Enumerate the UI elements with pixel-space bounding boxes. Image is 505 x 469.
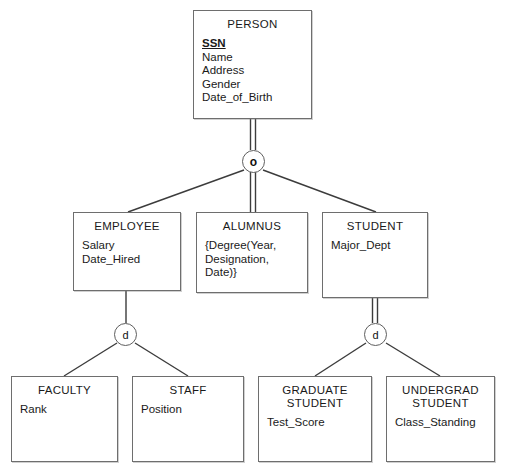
specialization-circle-disjoint-employee[interactable]: d [114,323,137,346]
line-dspec-to-undergrad [386,343,440,376]
line-spec-to-employee [128,170,244,212]
attribute-degree-line3: Date)} [205,266,307,280]
line-dspec-to-graduate [315,343,366,376]
er-diagram-canvas: PERSON SSN Name Address Gender Date_of_B… [0,0,505,469]
entity-undergrad-student[interactable]: UNDERGRAD STUDENT Class_Standing [386,376,495,462]
attribute-major-dept: Major_Dept [331,239,427,253]
entity-employee-attributes: Salary Date_Hired [74,233,180,266]
entity-employee-title: EMPLOYEE [74,213,180,233]
entity-student-attributes: Major_Dept [323,233,427,253]
entity-staff-title: STAFF [133,377,243,397]
attribute-date-of-birth: Date_of_Birth [202,91,311,105]
entity-faculty[interactable]: FACULTY Rank [11,376,118,462]
overlapping-symbol: o [250,155,257,169]
disjoint-symbol-employee: d [122,329,128,341]
attribute-ssn: SSN [202,37,311,51]
entity-person-title: PERSON [194,11,311,31]
line-dspec-to-faculty [64,343,117,376]
attribute-test-score: Test_Score [267,416,371,430]
entity-student-title: STUDENT [323,213,427,233]
entity-staff-attributes: Position [133,397,243,417]
entity-graduate-student-title-line1: GRADUATE [259,384,371,397]
entity-undergrad-student-title: UNDERGRAD STUDENT [387,377,494,410]
entity-graduate-student[interactable]: GRADUATE STUDENT Test_Score [258,376,372,462]
line-dspec-to-staff [135,343,188,376]
attribute-degree-line1: {Degree(Year, [205,239,307,253]
attribute-rank: Rank [20,403,117,417]
disjoint-symbol-student: d [372,329,378,341]
entity-person[interactable]: PERSON SSN Name Address Gender Date_of_B… [193,10,312,119]
specialization-circle-overlapping[interactable]: o [242,150,265,173]
specialization-circle-disjoint-student[interactable]: d [364,323,387,346]
entity-undergrad-student-title-line2: STUDENT [387,397,494,410]
attribute-position: Position [141,403,243,417]
entity-faculty-attributes: Rank [12,397,117,417]
attribute-name: Name [202,51,311,65]
entity-staff[interactable]: STAFF Position [132,376,244,462]
entity-undergrad-student-title-line1: UNDERGRAD [387,384,494,397]
attribute-date-hired: Date_Hired [82,253,180,267]
attribute-gender: Gender [202,78,311,92]
entity-student[interactable]: STUDENT Major_Dept [322,212,428,298]
entity-alumnus[interactable]: ALUMNUS {Degree(Year, Designation, Date)… [196,212,308,293]
entity-graduate-student-title-line2: STUDENT [259,397,371,410]
entity-graduate-student-attributes: Test_Score [259,410,371,430]
entity-undergrad-student-attributes: Class_Standing [387,410,494,430]
entity-employee[interactable]: EMPLOYEE Salary Date_Hired [73,212,181,291]
line-spec-to-student [263,170,376,212]
attribute-class-standing: Class_Standing [395,416,494,430]
entity-person-attributes: SSN Name Address Gender Date_of_Birth [194,31,311,105]
attribute-address: Address [202,64,311,78]
attribute-salary: Salary [82,239,180,253]
attribute-degree-line2: Designation, [205,253,307,267]
entity-faculty-title: FACULTY [12,377,117,397]
entity-alumnus-title: ALUMNUS [197,213,307,233]
entity-alumnus-attributes: {Degree(Year, Designation, Date)} [197,233,307,280]
entity-graduate-student-title: GRADUATE STUDENT [259,377,371,410]
